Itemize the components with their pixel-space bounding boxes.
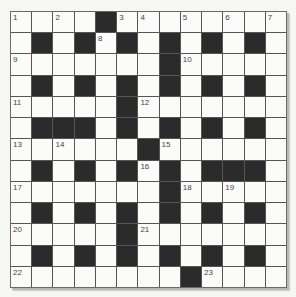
- letter-cell[interactable]: [75, 54, 95, 74]
- letter-cell[interactable]: [32, 224, 52, 244]
- letter-cell[interactable]: [245, 267, 265, 287]
- letter-cell[interactable]: [223, 267, 243, 287]
- letter-cell[interactable]: [181, 97, 201, 117]
- letter-cell[interactable]: [266, 246, 286, 266]
- letter-cell[interactable]: 6: [223, 12, 243, 32]
- letter-cell[interactable]: [96, 246, 116, 266]
- letter-cell[interactable]: [223, 139, 243, 159]
- letter-cell[interactable]: [32, 97, 52, 117]
- letter-cell[interactable]: [181, 33, 201, 53]
- letter-cell[interactable]: [223, 97, 243, 117]
- letter-cell[interactable]: [138, 267, 158, 287]
- letter-cell[interactable]: [75, 224, 95, 244]
- letter-cell[interactable]: [32, 267, 52, 287]
- letter-cell[interactable]: 21: [138, 224, 158, 244]
- letter-cell[interactable]: 1: [11, 12, 31, 32]
- letter-cell[interactable]: 16: [138, 161, 158, 181]
- letter-cell[interactable]: [266, 161, 286, 181]
- letter-cell[interactable]: [223, 224, 243, 244]
- letter-cell[interactable]: [53, 246, 73, 266]
- letter-cell[interactable]: 14: [53, 139, 73, 159]
- letter-cell[interactable]: [223, 118, 243, 138]
- letter-cell[interactable]: [245, 97, 265, 117]
- letter-cell[interactable]: 18: [181, 182, 201, 202]
- letter-cell[interactable]: [96, 97, 116, 117]
- letter-cell[interactable]: [138, 203, 158, 223]
- letter-cell[interactable]: [160, 12, 180, 32]
- letter-cell[interactable]: [11, 118, 31, 138]
- letter-cell[interactable]: 22: [11, 267, 31, 287]
- letter-cell[interactable]: [181, 203, 201, 223]
- letter-cell[interactable]: [245, 54, 265, 74]
- letter-cell[interactable]: [266, 97, 286, 117]
- letter-cell[interactable]: 13: [11, 139, 31, 159]
- letter-cell[interactable]: [75, 12, 95, 32]
- letter-cell[interactable]: [11, 246, 31, 266]
- letter-cell[interactable]: 10: [181, 54, 201, 74]
- letter-cell[interactable]: [138, 54, 158, 74]
- letter-cell[interactable]: [202, 97, 222, 117]
- letter-cell[interactable]: [96, 118, 116, 138]
- letter-cell[interactable]: 23: [202, 267, 222, 287]
- letter-cell[interactable]: 9: [11, 54, 31, 74]
- letter-cell[interactable]: [11, 203, 31, 223]
- letter-cell[interactable]: [138, 182, 158, 202]
- letter-cell[interactable]: [75, 182, 95, 202]
- letter-cell[interactable]: 12: [138, 97, 158, 117]
- letter-cell[interactable]: [223, 203, 243, 223]
- letter-cell[interactable]: 11: [11, 97, 31, 117]
- letter-cell[interactable]: [117, 182, 137, 202]
- letter-cell[interactable]: [53, 182, 73, 202]
- letter-cell[interactable]: [53, 97, 73, 117]
- letter-cell[interactable]: [160, 267, 180, 287]
- letter-cell[interactable]: [138, 118, 158, 138]
- letter-cell[interactable]: [181, 118, 201, 138]
- letter-cell[interactable]: [53, 203, 73, 223]
- letter-cell[interactable]: [53, 161, 73, 181]
- letter-cell[interactable]: [181, 246, 201, 266]
- letter-cell[interactable]: [266, 76, 286, 96]
- letter-cell[interactable]: [223, 33, 243, 53]
- letter-cell[interactable]: [223, 246, 243, 266]
- letter-cell[interactable]: [223, 76, 243, 96]
- letter-cell[interactable]: 19: [223, 182, 243, 202]
- letter-cell[interactable]: [53, 224, 73, 244]
- letter-cell[interactable]: [266, 267, 286, 287]
- letter-cell[interactable]: [138, 33, 158, 53]
- letter-cell[interactable]: [96, 139, 116, 159]
- letter-cell[interactable]: [202, 182, 222, 202]
- letter-cell[interactable]: [32, 139, 52, 159]
- letter-cell[interactable]: [266, 224, 286, 244]
- letter-cell[interactable]: [117, 139, 137, 159]
- letter-cell[interactable]: [11, 33, 31, 53]
- letter-cell[interactable]: [75, 267, 95, 287]
- letter-cell[interactable]: [245, 224, 265, 244]
- letter-cell[interactable]: 5: [181, 12, 201, 32]
- letter-cell[interactable]: [266, 118, 286, 138]
- letter-cell[interactable]: [96, 203, 116, 223]
- letter-cell[interactable]: [181, 76, 201, 96]
- letter-cell[interactable]: [266, 182, 286, 202]
- letter-cell[interactable]: [32, 182, 52, 202]
- letter-cell[interactable]: [53, 54, 73, 74]
- letter-cell[interactable]: [181, 224, 201, 244]
- letter-cell[interactable]: [266, 33, 286, 53]
- letter-cell[interactable]: [202, 12, 222, 32]
- letter-cell[interactable]: [96, 224, 116, 244]
- letter-cell[interactable]: 7: [266, 12, 286, 32]
- letter-cell[interactable]: [11, 161, 31, 181]
- letter-cell[interactable]: [11, 76, 31, 96]
- letter-cell[interactable]: [96, 54, 116, 74]
- letter-cell[interactable]: 2: [53, 12, 73, 32]
- letter-cell[interactable]: [266, 203, 286, 223]
- letter-cell[interactable]: [117, 267, 137, 287]
- letter-cell[interactable]: [160, 97, 180, 117]
- letter-cell[interactable]: [181, 139, 201, 159]
- letter-cell[interactable]: 17: [11, 182, 31, 202]
- letter-cell[interactable]: [32, 54, 52, 74]
- letter-cell[interactable]: [53, 267, 73, 287]
- letter-cell[interactable]: [32, 12, 52, 32]
- letter-cell[interactable]: [160, 224, 180, 244]
- letter-cell[interactable]: [245, 139, 265, 159]
- letter-cell[interactable]: 3: [117, 12, 137, 32]
